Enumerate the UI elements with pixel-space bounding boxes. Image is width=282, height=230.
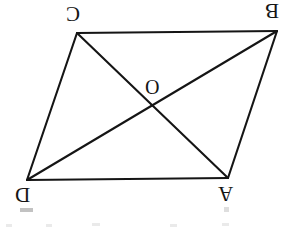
center-label-o: O	[145, 77, 159, 97]
vertex-label-b: B	[265, 0, 279, 21]
parallelogram-drawing	[0, 0, 282, 230]
side-DC	[27, 33, 77, 180]
side-BA	[228, 31, 277, 178]
side-AD	[27, 178, 228, 180]
vertex-label-d: D	[15, 184, 30, 205]
parallelogram-diagonals	[27, 31, 277, 180]
diagonal-DB	[27, 31, 277, 180]
geometry-figure: C B D A O	[0, 0, 282, 230]
side-CB	[77, 31, 277, 33]
vertex-label-a: A	[218, 183, 233, 204]
vertex-label-c: C	[66, 3, 80, 24]
